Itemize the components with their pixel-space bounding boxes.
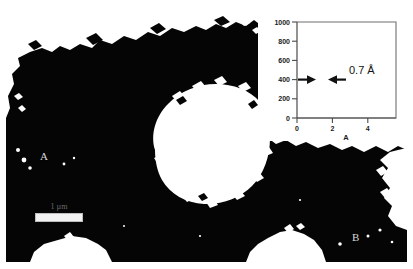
annotation-label-width: 0.7 Å — [349, 64, 375, 76]
scale-bar-caption: 1 µm — [33, 203, 85, 211]
y-tick-label-0: 0 — [286, 115, 290, 122]
inset-plot-svg: 1000 800 600 400 200 0 0 2 4 A — [258, 4, 413, 141]
panel-label-b: B — [352, 232, 360, 243]
panel-label-a: A — [40, 151, 48, 162]
y-tick-label-400: 400 — [278, 76, 290, 83]
y-tick-label-600: 600 — [278, 57, 290, 64]
y-tick-label-1000: 1000 — [274, 19, 290, 26]
x-tick-label-2: 2 — [330, 125, 334, 132]
x-tick-label-0: 0 — [295, 125, 299, 132]
figure-container: A B 1 µm 1000 800 600 — [0, 0, 413, 269]
scale-bar-rule — [35, 213, 83, 222]
x-tick-label-4: 4 — [366, 125, 370, 132]
x-axis-title: A — [343, 133, 349, 141]
inset-plot: 1000 800 600 400 200 0 0 2 4 A — [258, 4, 413, 141]
y-tick-label-800: 800 — [278, 38, 290, 45]
y-tick-label-200: 200 — [278, 95, 290, 102]
scale-bar: 1 µm — [33, 203, 85, 222]
